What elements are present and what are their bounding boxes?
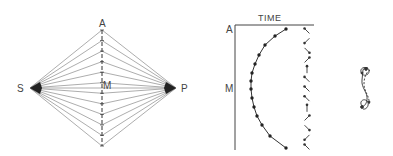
curve-point [284, 146, 287, 149]
fan-line [30, 41, 102, 88]
time-axis-title: TIME [258, 13, 282, 23]
arrow-head [303, 143, 306, 146]
diagram-canvas: A S P M TIME A M [0, 0, 393, 156]
graph-label-a: A [226, 24, 233, 35]
fan-line [102, 41, 176, 88]
fan-line [102, 51, 176, 88]
arrow-column [303, 27, 311, 149]
curve-point [249, 79, 252, 82]
arrow-head [303, 27, 306, 30]
figure-eight-trace [361, 67, 370, 109]
curve-point [263, 43, 266, 46]
arrow-head [303, 42, 306, 45]
label-a: A [99, 18, 106, 29]
trajectory-curve [249, 27, 287, 149]
fan-line [30, 88, 102, 146]
fan-line [102, 88, 176, 125]
label-s: S [17, 83, 24, 94]
curve-point [252, 105, 255, 108]
curve-point [250, 71, 253, 74]
arrow-head [303, 138, 306, 141]
fan-line [30, 88, 102, 125]
curve-point [257, 53, 260, 56]
fan-line [30, 88, 102, 135]
curve-point [249, 87, 252, 90]
arrow-head [308, 56, 311, 59]
arrow-head [308, 129, 311, 132]
curve-point [273, 34, 276, 37]
curve-point [260, 123, 263, 126]
label-m: M [103, 80, 111, 91]
arrow-head [308, 51, 311, 54]
arrow-head [303, 85, 306, 88]
arrow-head [308, 114, 311, 117]
curve-point [284, 27, 287, 30]
fan-line [102, 88, 176, 146]
arrow-head [306, 104, 309, 107]
fan-line [30, 51, 102, 88]
curve-point [255, 114, 258, 117]
arrow-head [303, 95, 306, 98]
curve-point [253, 62, 256, 65]
label-p: P [181, 83, 188, 94]
fan-line [102, 88, 176, 135]
fan-line [102, 30, 176, 88]
arrow-head [303, 76, 306, 79]
curve-point [250, 96, 253, 99]
curve-point [268, 134, 271, 137]
graph-label-m: M [225, 83, 233, 94]
arrow-head [306, 65, 309, 68]
fan-line [30, 30, 102, 88]
